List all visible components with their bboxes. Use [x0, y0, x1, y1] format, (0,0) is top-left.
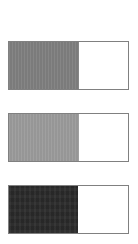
progress-bar-1-empty-track — [79, 42, 128, 89]
progress-bar-1[interactable] — [8, 41, 129, 90]
progress-bar-2-empty-track — [79, 114, 128, 161]
progress-bar-3[interactable] — [8, 185, 129, 234]
chart-canvas — [0, 0, 138, 244]
progress-bar-3-fill — [9, 186, 78, 233]
progress-bar-2-fill — [9, 114, 79, 161]
progress-bar-2[interactable] — [8, 113, 129, 162]
progress-bar-1-fill — [9, 42, 79, 89]
progress-bar-3-empty-track — [78, 186, 128, 233]
